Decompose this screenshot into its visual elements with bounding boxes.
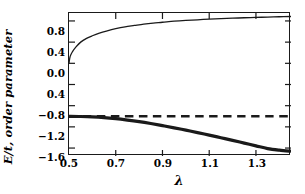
- y-tick-label: −1.2: [25, 131, 65, 142]
- chart-figure: E/t, order parameter λ 0.8 0.4 0.0 0.4 −…: [0, 0, 305, 194]
- y-tick-label: 0.4: [25, 89, 65, 100]
- plot-canvas: [69, 13, 291, 156]
- plot-area: [68, 12, 290, 155]
- series-line: [69, 17, 291, 64]
- y-tick-label: −0.8: [25, 110, 65, 121]
- x-tick-label: 0.9: [143, 158, 183, 169]
- x-tick-label: 0.5: [49, 158, 89, 169]
- x-axis-title: λ: [68, 173, 290, 188]
- x-tick-label: 1.1: [190, 158, 230, 169]
- axis-ticks: [69, 13, 291, 156]
- y-tick-label: 0.0: [25, 68, 65, 79]
- data-series: [69, 17, 291, 152]
- y-axis-title: E/t, order parameter: [0, 0, 16, 194]
- x-tick-label: 0.7: [96, 158, 136, 169]
- y-tick-label: 0.4: [25, 47, 65, 58]
- x-tick-label: 1.3: [237, 158, 277, 169]
- series-line: [69, 116, 291, 151]
- y-tick-label: 0.8: [25, 26, 65, 37]
